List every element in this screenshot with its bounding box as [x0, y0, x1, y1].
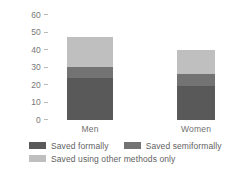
bar-segment-men-formal	[67, 78, 113, 120]
legend-label: Saved formally	[51, 141, 109, 151]
legend-row-2: Saved using other methods only	[0, 153, 247, 164]
legend: Saved formally Saved semiformally Saved …	[0, 140, 247, 166]
legend-item-saved-semiformally: Saved semiformally	[124, 141, 222, 151]
bar-segment-men-other	[67, 37, 113, 67]
legend-item-saved-formally: Saved formally	[29, 141, 109, 151]
bar-women	[177, 50, 215, 120]
legend-label: Saved semiformally	[146, 141, 222, 151]
legend-swatch-other	[29, 155, 46, 162]
plot-area: 60 50 40 30 20 10 0 Men Women	[0, 0, 247, 136]
bar-men	[67, 37, 113, 119]
stacked-bar-chart: 60 50 40 30 20 10 0 Men Women	[0, 0, 247, 172]
bar-segment-women-semiformal	[177, 74, 215, 86]
bar-segment-women-other	[177, 50, 215, 75]
bar-segment-men-semiformal	[67, 67, 113, 78]
bar-group	[0, 0, 247, 136]
legend-swatch-formal	[29, 142, 46, 149]
legend-label: Saved using other methods only	[51, 154, 175, 164]
legend-item-saved-other-methods: Saved using other methods only	[29, 154, 175, 164]
x-label-women: Women	[177, 124, 215, 134]
x-label-men: Men	[67, 124, 113, 134]
bar-segment-women-formal	[177, 86, 215, 119]
legend-swatch-semiformal	[124, 142, 141, 149]
legend-row-1: Saved formally Saved semiformally	[0, 140, 247, 151]
